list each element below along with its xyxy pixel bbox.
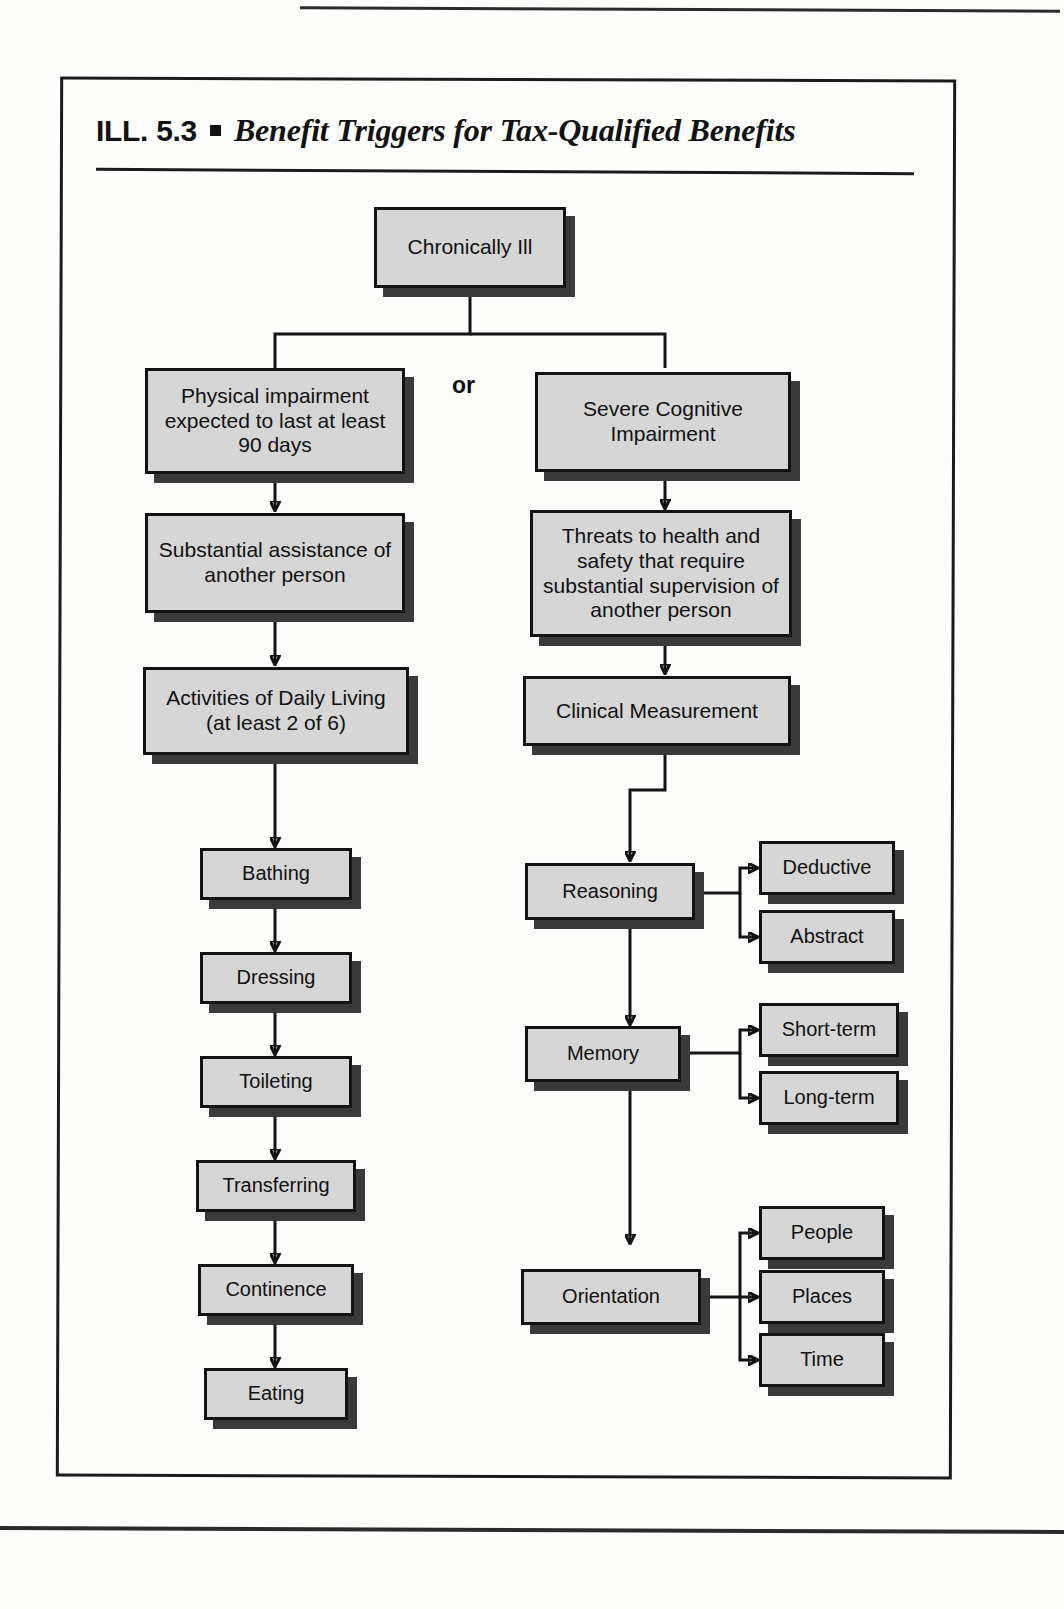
node-label: Activities of Daily Living (at least 2 o… <box>152 686 400 736</box>
node-deductive[interactable]: Deductive <box>759 841 895 895</box>
node-chronically-ill[interactable]: Chronically Ill <box>374 207 566 288</box>
node-transferring[interactable]: Transferring <box>196 1160 356 1212</box>
node-label: Dressing <box>237 966 316 990</box>
node-label: Memory <box>567 1042 639 1066</box>
node-clinical-measurement[interactable]: Clinical Measurement <box>523 676 791 746</box>
node-substantial-assistance[interactable]: Substantial assistance of another person <box>145 513 405 613</box>
wire-clinical-to-reasoning <box>630 746 665 860</box>
node-places[interactable]: Places <box>759 1270 885 1324</box>
wire-reasoning-to-deductive <box>695 868 757 893</box>
node-label: Deductive <box>783 856 872 880</box>
flowchart: Chronically Ill or Physical impairment e… <box>0 0 1064 1609</box>
node-label: Toileting <box>239 1070 312 1094</box>
node-label: Chronically Ill <box>408 235 533 260</box>
node-label: Severe Cognitive Impairment <box>544 397 782 447</box>
node-label: Transferring <box>222 1174 329 1198</box>
node-time[interactable]: Time <box>759 1333 885 1387</box>
node-label: Orientation <box>562 1285 660 1309</box>
wire-orientation-to-time <box>740 1297 757 1360</box>
node-orientation[interactable]: Orientation <box>521 1269 701 1325</box>
node-long-term[interactable]: Long-term <box>759 1071 899 1125</box>
node-label: Clinical Measurement <box>556 699 758 724</box>
node-short-term[interactable]: Short-term <box>759 1003 899 1057</box>
node-reasoning[interactable]: Reasoning <box>525 863 695 920</box>
wire-reasoning-to-abstract <box>740 893 757 937</box>
node-label: Places <box>792 1285 852 1309</box>
node-label: Threats to health and safety that requir… <box>539 524 783 623</box>
node-label: Abstract <box>790 925 863 949</box>
node-abstract[interactable]: Abstract <box>759 910 895 964</box>
node-label: Continence <box>225 1278 326 1302</box>
or-connector-label: or <box>452 372 475 399</box>
node-toileting[interactable]: Toileting <box>200 1056 352 1108</box>
node-continence[interactable]: Continence <box>198 1264 354 1316</box>
node-label: Bathing <box>242 862 310 886</box>
node-people[interactable]: People <box>759 1206 885 1260</box>
node-threats-to-health[interactable]: Threats to health and safety that requir… <box>530 510 792 637</box>
node-activities-daily-living[interactable]: Activities of Daily Living (at least 2 o… <box>143 667 409 755</box>
node-dressing[interactable]: Dressing <box>200 952 352 1004</box>
node-physical-impairment[interactable]: Physical impairment expected to last at … <box>145 368 405 474</box>
node-eating[interactable]: Eating <box>204 1368 348 1420</box>
node-label: Eating <box>248 1382 305 1406</box>
node-severe-cognitive-impairment[interactable]: Severe Cognitive Impairment <box>535 372 791 472</box>
wire-root-to-physical <box>275 288 470 368</box>
wire-memory-to-longterm <box>740 1053 757 1098</box>
wire-memory-to-shortterm <box>681 1030 757 1053</box>
node-label: Time <box>800 1348 844 1372</box>
node-bathing[interactable]: Bathing <box>200 848 352 900</box>
node-label: Substantial assistance of another person <box>154 538 396 588</box>
node-label: Reasoning <box>562 880 658 904</box>
node-label: Physical impairment expected to last at … <box>154 384 396 458</box>
wire-root-to-cognitive <box>470 334 665 368</box>
node-label: Long-term <box>783 1086 874 1110</box>
node-memory[interactable]: Memory <box>525 1026 681 1082</box>
node-label: People <box>791 1221 853 1245</box>
wire-orientation-to-people <box>701 1233 757 1297</box>
node-label: Short-term <box>782 1018 876 1042</box>
